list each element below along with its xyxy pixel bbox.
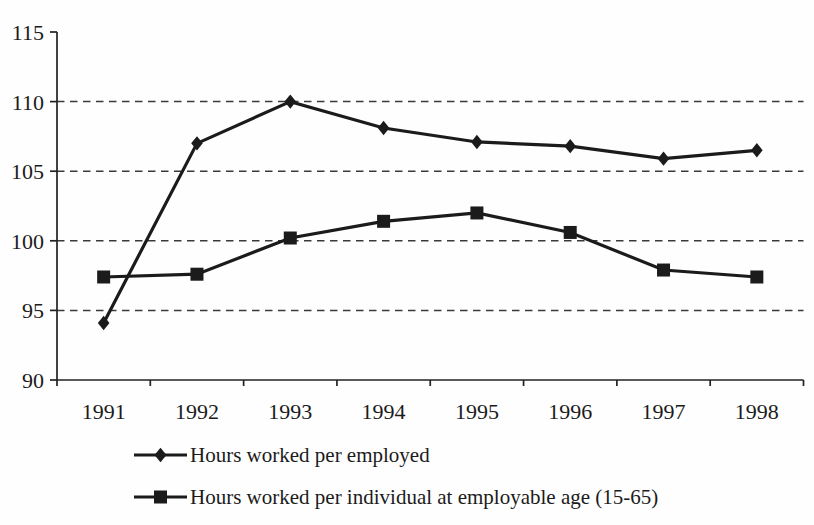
hours-worked-line-chart: 9095100105110115199119921993199419951996… (0, 0, 814, 525)
data-point-square-1991 (97, 270, 110, 283)
data-point-diamond-1998 (751, 143, 763, 157)
data-point-diamond-1993 (284, 94, 296, 108)
x-axis-label-1994: 1994 (362, 399, 406, 424)
square-marker-icon (134, 489, 187, 505)
x-axis-label-1991: 1991 (82, 399, 126, 424)
legend-item-employed: Hours worked per employed (134, 444, 658, 466)
x-axis-label-1992: 1992 (175, 399, 219, 424)
data-point-diamond-1995 (471, 135, 483, 149)
data-point-square-1994 (377, 215, 390, 228)
chart-plot-area: 9095100105110115199119921993199419951996… (0, 0, 814, 432)
data-point-diamond-1996 (564, 139, 576, 153)
data-point-square-1998 (750, 270, 763, 283)
legend-label-employed: Hours worked per employed (190, 444, 430, 466)
y-axis-label-105: 105 (11, 159, 44, 184)
chart-legend: Hours worked per employed Hours worked p… (134, 444, 658, 508)
data-point-square-1997 (657, 264, 670, 277)
data-point-diamond-1997 (658, 151, 670, 165)
y-axis-label-95: 95 (22, 298, 44, 323)
data-point-square-1993 (284, 232, 297, 245)
data-point-square-1992 (190, 268, 203, 281)
legend-item-employable-age: Hours worked per individual at employabl… (134, 486, 658, 508)
x-axis-label-1993: 1993 (268, 399, 312, 424)
scanned-chart-page: 9095100105110115199119921993199419951996… (0, 0, 814, 525)
y-axis-label-115: 115 (12, 20, 44, 45)
data-point-diamond-1994 (378, 121, 390, 135)
data-point-square-1995 (470, 206, 483, 219)
diamond-marker-icon (134, 447, 187, 463)
x-axis-label-1997: 1997 (642, 399, 686, 424)
legend-label-employable-age: Hours worked per individual at employabl… (190, 486, 658, 508)
data-point-square-1996 (564, 226, 577, 239)
x-axis-label-1996: 1996 (548, 399, 592, 424)
series-line-0 (104, 102, 757, 323)
x-axis-label-1998: 1998 (735, 399, 779, 424)
x-axis-label-1995: 1995 (455, 399, 499, 424)
y-axis-label-100: 100 (11, 229, 44, 254)
y-axis-label-110: 110 (12, 90, 44, 115)
y-axis-label-90: 90 (22, 368, 44, 393)
